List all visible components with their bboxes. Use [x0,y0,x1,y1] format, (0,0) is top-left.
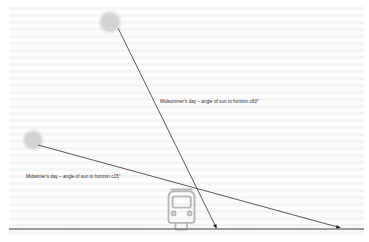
sun-icon-midwinter [21,128,46,153]
tram-front-icon [168,190,194,230]
midsummer-sun-ray [118,28,216,227]
midsummer-angle-label: Midsummer's day – angle of sun to horizo… [160,99,259,104]
diagram-canvas: Midsummer's day – angle of sun to horizo… [0,0,369,242]
sun-angle-diagram [0,0,369,242]
midwinter-angle-label: Midwinter's day – angle of sun to horizo… [26,174,121,179]
